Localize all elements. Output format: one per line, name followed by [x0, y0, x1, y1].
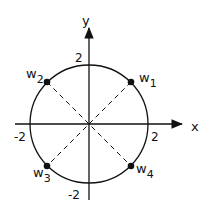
- point-w4: [128, 163, 135, 170]
- tick-y-pos: 2: [75, 51, 83, 65]
- x-axis-label: x: [191, 119, 199, 134]
- y-axis-label: y: [82, 13, 90, 28]
- point-w3: [44, 163, 51, 170]
- point-w2: [44, 79, 51, 86]
- complex-plane-diagram: x y 2 -2 2 -2 w1 w2 w3 w4: [0, 0, 208, 213]
- tick-x-neg: -2: [14, 130, 26, 144]
- tick-x-pos: 2: [151, 130, 159, 144]
- label-w1: w1: [139, 70, 157, 90]
- label-w4: w4: [136, 161, 154, 181]
- label-w2: w2: [26, 66, 44, 86]
- point-w1: [128, 79, 135, 86]
- tick-y-neg: -2: [68, 188, 80, 202]
